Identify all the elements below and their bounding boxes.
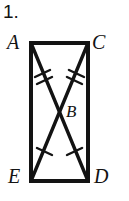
vertex-label-d: D [94,166,108,186]
vertex-label-b: B [66,103,76,120]
figure-page: 1. A C D E B [0,0,129,201]
vertex-label-c: C [92,32,105,52]
vertex-label-a: A [7,32,19,52]
vertex-label-e: E [8,166,20,186]
